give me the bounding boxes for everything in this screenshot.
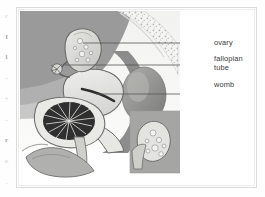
edge-artifact-mark: + <box>5 96 9 103</box>
label-ovary: ovary <box>214 39 233 48</box>
scan-edge-artifacts: r I l - + - r e . <box>0 0 13 197</box>
anatomy-svg <box>20 11 180 183</box>
edge-artifact-mark: - <box>5 75 7 82</box>
bladder-highlight <box>127 72 149 102</box>
edge-artifact-mark: - <box>5 117 7 124</box>
edge-artifact-mark: I <box>5 34 8 41</box>
page-canvas: r I l - + - r e . <box>0 0 265 197</box>
figure-frame: ovary fallopian tube womb <box>16 7 257 188</box>
edge-artifact-mark: r <box>5 137 8 144</box>
rectum-lumen <box>43 102 95 140</box>
magnified-ovary-inset <box>130 111 180 173</box>
label-fallopian-tube: fallopian tube <box>214 55 243 72</box>
label-womb: womb <box>214 81 234 90</box>
edge-artifact-mark: l <box>6 54 8 61</box>
edge-artifact-mark: r <box>5 13 7 20</box>
edge-artifact-mark: . <box>6 179 8 186</box>
anatomy-illustration <box>20 11 180 183</box>
edge-artifact-mark: e <box>5 158 8 165</box>
